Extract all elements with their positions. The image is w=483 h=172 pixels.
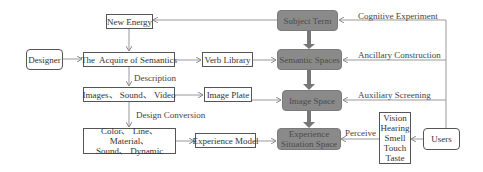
node-label-line1: Experience bbox=[289, 129, 329, 139]
node-image-space: Image Space bbox=[282, 90, 342, 111]
node-label: New Energy bbox=[107, 17, 152, 27]
node-images-sound-video: Images、 Sound、 Video bbox=[83, 87, 175, 102]
node-users: Users bbox=[423, 128, 460, 150]
node-label-line2: Situation Space bbox=[281, 139, 337, 149]
node-label: The Acquire of Semantics bbox=[81, 55, 177, 65]
node-verb-library: Verb Library bbox=[202, 52, 253, 67]
node-label: Image Plate bbox=[207, 90, 250, 100]
node-label: Users bbox=[431, 134, 452, 144]
sense-vision: Vision bbox=[383, 113, 406, 123]
node-experience-situation-space: Experience Situation Space bbox=[277, 128, 341, 150]
node-label: Experience Model bbox=[192, 136, 258, 146]
node-experience-model: Experience Model bbox=[195, 133, 256, 148]
node-label: Designer bbox=[28, 55, 61, 65]
node-designer: Designer bbox=[26, 49, 63, 70]
edge-label-auxiliary-screening: Auxiliary Screening bbox=[358, 90, 431, 100]
node-subject-term: Subject Term bbox=[277, 10, 338, 31]
node-semantic-spaces: Semantic Spaces bbox=[277, 49, 342, 70]
node-label-line2: Sound、 Dynamic bbox=[96, 146, 163, 156]
edge-label-cognitive-experiment: Cognitive Experiment bbox=[358, 11, 438, 21]
node-label: Semantic Spaces bbox=[279, 55, 340, 65]
edge-label-description: Description bbox=[134, 73, 176, 83]
sense-smell: Smell bbox=[384, 133, 405, 143]
node-senses: Vision Hearing Smell Touch Taste bbox=[379, 112, 411, 164]
node-label: Images、 Sound、 Video bbox=[83, 90, 176, 100]
sense-hearing: Hearing bbox=[381, 123, 410, 133]
diagram-canvas: New Energy Designer The Acquire of Seman… bbox=[0, 0, 483, 172]
sense-touch: Touch bbox=[384, 143, 406, 153]
node-label: Image Space bbox=[289, 96, 335, 106]
edge-label-ancillary-construction: Ancillary Construction bbox=[358, 50, 441, 60]
node-new-energy: New Energy bbox=[106, 14, 153, 29]
node-acquire-semantics: The Acquire of Semantics bbox=[83, 52, 175, 67]
node-label: Verb Library bbox=[204, 55, 250, 65]
node-label-line1: Color、 Line、 Material、 bbox=[84, 126, 175, 146]
node-color-line-material: Color、 Line、 Material、 Sound、 Dynamic bbox=[83, 128, 176, 154]
node-label: Subject Term bbox=[284, 16, 332, 26]
sense-taste: Taste bbox=[386, 153, 405, 163]
edge-label-design-conversion: Design Conversion bbox=[136, 110, 205, 120]
edge-label-perceive: Perceive bbox=[345, 128, 376, 138]
node-image-plate: Image Plate bbox=[204, 87, 252, 102]
